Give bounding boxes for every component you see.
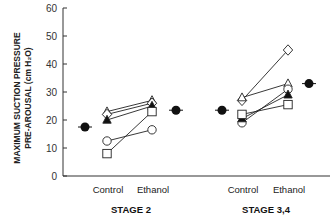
group-stage-2: ControlEthanolSTAGE 2 <box>78 96 183 215</box>
mean-dot <box>218 106 227 115</box>
category-label-ethanol: Ethanol <box>273 184 305 195</box>
subject-line <box>242 84 288 98</box>
open-square-marker <box>238 110 246 118</box>
category-label-ethanol: Ethanol <box>137 184 169 195</box>
group-stage-3-4: ControlEthanolSTAGE 3,4 <box>215 45 316 215</box>
open-circle-marker <box>103 137 111 145</box>
y-tick-label: 30 <box>46 87 58 98</box>
y-tick-label: 40 <box>46 59 58 70</box>
group-label: STAGE 3,4 <box>242 204 291 215</box>
y-tick-label: 50 <box>46 31 58 42</box>
mean-dot <box>81 123 90 132</box>
category-label-control: Control <box>93 184 124 195</box>
mean-dot <box>305 79 314 88</box>
subject-line <box>107 130 152 141</box>
chart: 0102030405060MAXIMUM SUCTION PRESSUREPRE… <box>0 0 333 220</box>
mean-dot <box>172 106 181 115</box>
category-label-control: Control <box>228 184 259 195</box>
y-tick-label: 0 <box>51 171 57 182</box>
subject-line <box>242 50 288 100</box>
open-circle-marker <box>148 126 156 134</box>
open-square-marker <box>148 107 156 115</box>
group-label: STAGE 2 <box>111 204 151 215</box>
y-tick-label: 20 <box>46 115 58 126</box>
subject-line <box>107 100 152 111</box>
open-square-marker <box>103 149 111 157</box>
open-square-marker <box>284 100 292 108</box>
y-axis-label: MAXIMUM SUCTION PRESSURE <box>12 32 22 164</box>
y-axis-label-2: PRE-AROUSAL (cm H₂O) <box>23 47 33 149</box>
y-tick-label: 10 <box>46 143 58 154</box>
subject-line <box>242 95 288 119</box>
y-tick-label: 60 <box>46 3 58 14</box>
